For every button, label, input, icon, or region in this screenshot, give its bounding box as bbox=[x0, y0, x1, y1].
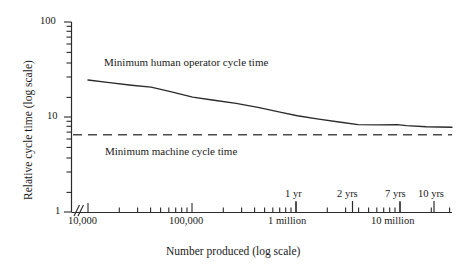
year-annotation-ticks bbox=[296, 201, 434, 213]
chart-figure: Relative cycle time (log scale) 100 10 1… bbox=[0, 0, 465, 273]
annotation-10yrs: 10 yrs bbox=[418, 189, 444, 200]
x-tick-label-1-million: 1 million bbox=[268, 216, 306, 227]
x-tick-label-100000: 100,000 bbox=[169, 216, 203, 227]
y-tick-label-1: 1 bbox=[55, 206, 60, 217]
annotation-1yr: 1 yr bbox=[285, 189, 302, 200]
annotation-2yrs: 2 yrs bbox=[337, 189, 358, 200]
annotation-7yrs: 7 yrs bbox=[385, 189, 406, 200]
x-tick-label-10000: 10,000 bbox=[68, 216, 97, 227]
x-tick-label-10-million: 10 million bbox=[371, 216, 414, 227]
y-axis-title: Relative cycle time (log scale) bbox=[22, 60, 34, 200]
human-operator-curve bbox=[88, 80, 452, 127]
y-tick-label-10: 10 bbox=[47, 111, 58, 122]
x-axis-title: Number produced (log scale) bbox=[166, 246, 300, 258]
human-operator-curve-label: Minimum human operator cycle time bbox=[104, 57, 268, 68]
machine-cycle-line-label: Minimum machine cycle time bbox=[105, 146, 237, 157]
y-axis-ticks bbox=[64, 22, 72, 212]
chart-plot-area bbox=[0, 0, 465, 273]
x-axis-ticks bbox=[88, 202, 450, 213]
y-tick-label-100: 100 bbox=[40, 16, 56, 27]
